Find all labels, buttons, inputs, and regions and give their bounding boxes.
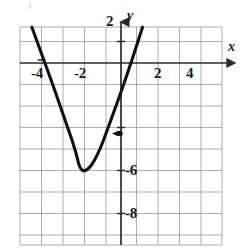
x-tick-label-neg2: -2 — [74, 66, 86, 81]
y-tick-label-neg6: -6 — [125, 163, 137, 178]
x-tick-label-4: 4 — [186, 66, 193, 81]
x-axis-label: x — [228, 40, 235, 54]
x-tick-label-2: 2 — [154, 66, 161, 81]
y-tick-label-2: 2 — [106, 14, 113, 29]
curve-point-marker — [112, 131, 123, 136]
x-tick-label-neg4: -4 — [31, 66, 43, 81]
coordinate-plane — [0, 0, 245, 249]
y-axis-label: y — [127, 9, 133, 23]
y-tick-label-neg8: -8 — [125, 206, 137, 221]
graph-figure: ) — [0, 0, 245, 249]
